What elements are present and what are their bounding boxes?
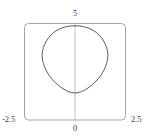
plot-figure: 5 0 -2.5 2.5 — [0, 0, 150, 139]
axis-label-bottom: 0 — [73, 124, 77, 133]
axis-label-top: 5 — [73, 9, 77, 18]
axis-label-left: -2.5 — [2, 115, 15, 124]
plot-canvas — [0, 0, 150, 139]
axis-label-right: 2.5 — [131, 115, 141, 124]
